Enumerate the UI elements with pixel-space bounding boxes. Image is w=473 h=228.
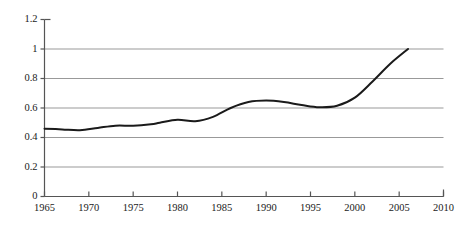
y-tick-label: 0.4: [24, 132, 37, 143]
y-tick-label: 0.8: [24, 73, 37, 84]
y-tick-label: 1.2: [24, 14, 37, 25]
x-tick-label: 1995: [291, 203, 331, 214]
y-tick-label: 1: [32, 44, 37, 55]
y-tick-label: 0.2: [24, 162, 37, 173]
data-series: [45, 49, 409, 130]
x-tick-label: 1965: [25, 203, 65, 214]
gridlines: [45, 49, 444, 167]
x-tick-label: 1980: [158, 203, 198, 214]
chart-plot-area: [0, 0, 473, 228]
y-tick-label: 0.6: [24, 103, 37, 114]
x-tick-label: 2010: [424, 203, 464, 214]
x-tick-label: 1970: [69, 203, 109, 214]
x-tick-label: 1975: [113, 203, 153, 214]
x-tick-label: 2005: [379, 203, 419, 214]
x-tick-label: 1985: [202, 203, 242, 214]
y-tick-label: 0: [32, 191, 37, 202]
series-line: [45, 49, 409, 130]
x-tick-label: 2000: [335, 203, 375, 214]
line-chart: 00.20.40.60.811.2 1965197019751980198519…: [0, 0, 473, 228]
x-tick-label: 1990: [246, 203, 286, 214]
